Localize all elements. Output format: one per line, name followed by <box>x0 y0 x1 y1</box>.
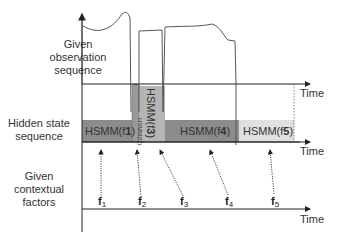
time-label-observation: Time <box>300 87 324 99</box>
segment-4-label: HSMM(f4) <box>180 125 230 137</box>
context-axes <box>82 142 310 209</box>
factor-5: f5 <box>271 195 280 209</box>
factor-2: f2 <box>138 195 147 209</box>
segment-5-label: HSMM(f5) <box>243 125 293 137</box>
factor-arrows <box>101 150 274 198</box>
factor-1: f1 <box>98 195 107 209</box>
factor-4: f4 <box>225 195 234 209</box>
segment-1-label: HSMM(f1) <box>85 125 135 137</box>
time-label-hidden: Time <box>300 145 324 157</box>
segment-3-label: HSMM(f3) <box>145 88 157 138</box>
time-label-context: Time <box>300 213 324 225</box>
segment-2-label: HSMM(f2) <box>137 118 143 145</box>
diagram-canvas: HSMM(f1) HSMM(f2) HSMM(f3) HSMM(f4) HSMM… <box>0 0 339 233</box>
factor-3: f3 <box>180 195 189 209</box>
